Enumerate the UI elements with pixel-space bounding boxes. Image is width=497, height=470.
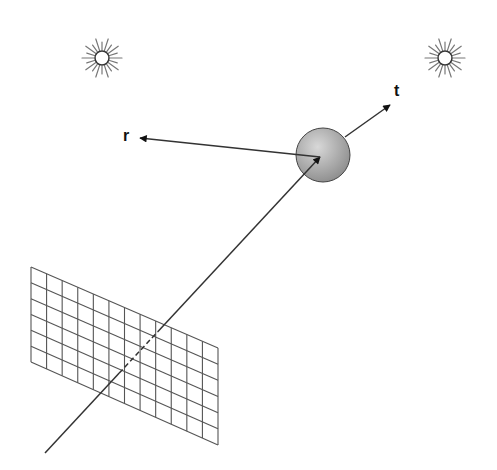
- diagram-canvas: [0, 0, 497, 470]
- transmitted-ray-label: t: [394, 83, 399, 99]
- light-source-right-icon: [425, 39, 465, 77]
- image-plane-grid: [31, 267, 218, 445]
- rays-overlay: [140, 105, 390, 332]
- ray-tracing-diagram: r t: [0, 0, 497, 470]
- reflected-ray-label: r: [123, 128, 129, 144]
- light-source-left-icon: [82, 39, 122, 77]
